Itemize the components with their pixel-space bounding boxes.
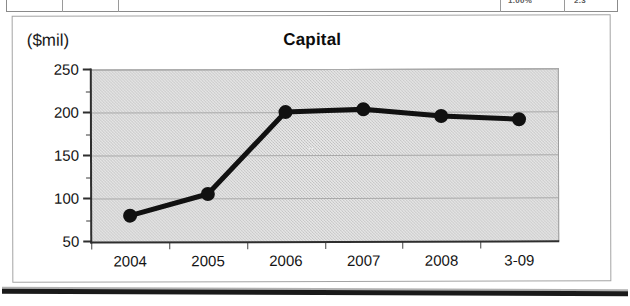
data-point-marker [201, 187, 215, 201]
table-column-divider [118, 0, 119, 12]
table-column-divider [62, 0, 63, 12]
data-point-marker [512, 112, 526, 126]
table-column-divider [564, 0, 565, 12]
table-column-divider [500, 0, 501, 12]
data-point-marker [123, 209, 137, 223]
cut-off-table-strip: 1.00% 2.3 [0, 0, 630, 14]
data-point-marker [356, 102, 370, 116]
data-point-marker [278, 105, 292, 119]
series-line [130, 109, 519, 216]
series-capital [13, 15, 613, 284]
table-cell-percent: 1.00% [508, 0, 532, 5]
table-cell-value: 2.3 [574, 0, 586, 5]
data-point-marker [434, 109, 448, 123]
chart-card: ($mil) Capital 50100150200250 2004200520… [12, 14, 612, 283]
plot-area: 50100150200250 200420052006200720083-09 [13, 15, 613, 284]
